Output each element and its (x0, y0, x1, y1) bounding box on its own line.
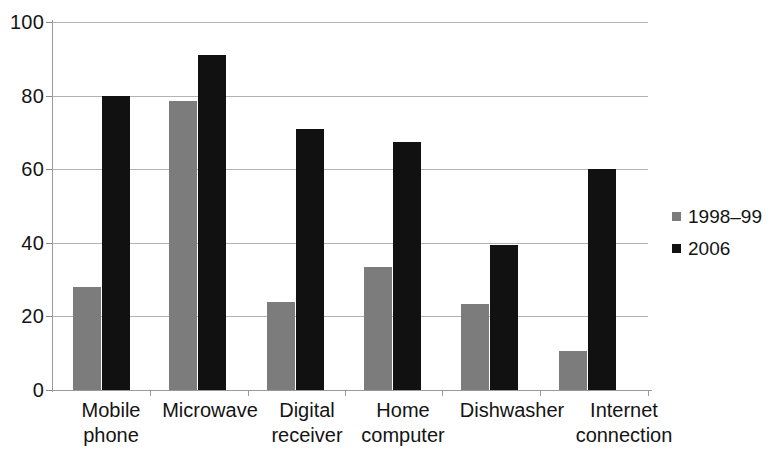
x-axis-labels: Mobile phone Microwave Digital receiver … (0, 398, 773, 458)
bar-2006 (490, 245, 518, 390)
bars-layer (52, 22, 648, 390)
x-axis-category-label: Digital receiver (255, 398, 359, 448)
chart-legend: 1998–99 2006 (672, 200, 773, 264)
bar-group (169, 22, 226, 390)
bar-group (364, 22, 421, 390)
bar-group (559, 22, 616, 390)
y-axis-labels: 100 80 60 40 20 0 (0, 0, 44, 461)
y-axis-tick-label: 100 (10, 12, 44, 32)
x-axis-category-label: Mobile phone (62, 398, 160, 448)
bar-1998-99 (267, 302, 295, 390)
x-axis-category-label: Dishwasher (450, 398, 574, 423)
bar-2006 (393, 142, 421, 390)
bar-2006 (198, 55, 226, 390)
x-axis-tick-mark (345, 391, 346, 396)
legend-item-2006: 2006 (672, 232, 773, 264)
bar-1998-99 (169, 101, 197, 390)
x-axis-category-label: Home computer (348, 398, 458, 448)
bar-1998-99 (461, 304, 489, 391)
bar-group (267, 22, 324, 390)
y-axis-tick-label: 0 (33, 380, 44, 400)
x-axis-category-label: Internet connection (558, 398, 690, 448)
bar-chart: 100 80 60 40 20 0 (0, 0, 773, 461)
bar-2006 (588, 169, 616, 390)
x-axis-tick-mark (540, 391, 541, 396)
x-axis-tick-mark (648, 391, 649, 396)
legend-swatch-icon (672, 244, 681, 253)
legend-item-1998-99: 1998–99 (672, 200, 773, 232)
x-axis-tick-mark (248, 391, 249, 396)
x-axis-tick-mark (442, 391, 443, 396)
x-axis-tick-mark (150, 391, 151, 396)
bar-1998-99 (364, 267, 392, 390)
bar-group (73, 22, 130, 390)
y-axis-tick-label: 20 (21, 306, 44, 326)
legend-swatch-icon (672, 212, 681, 221)
legend-label: 1998–99 (688, 207, 762, 226)
y-axis-tick-label: 40 (21, 233, 44, 253)
bar-group (461, 22, 518, 390)
y-axis-tick-label: 60 (21, 159, 44, 179)
legend-label: 2006 (688, 239, 730, 258)
bar-2006 (296, 129, 324, 390)
x-axis-line (52, 390, 652, 391)
bar-1998-99 (559, 351, 587, 390)
bar-2006 (102, 96, 130, 390)
y-axis-tick-label: 80 (21, 86, 44, 106)
x-axis-category-label: Microwave (150, 398, 270, 423)
bar-1998-99 (73, 287, 101, 390)
